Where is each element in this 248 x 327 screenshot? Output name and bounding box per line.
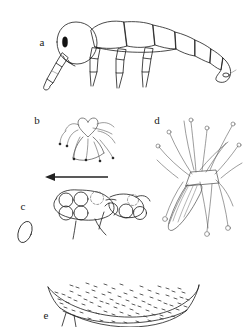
cordate-seta-6: [100, 140, 113, 158]
panel-label-a: a: [40, 36, 45, 48]
egg-cell: [59, 193, 73, 207]
egg-cell: [59, 206, 73, 220]
larva-antenna-segment1: [56, 53, 68, 67]
egg-cell-partial: [105, 203, 118, 215]
scale-seta-8: [218, 182, 228, 226]
larva-terminal-seta: [231, 70, 236, 73]
scale-seta-16: [221, 163, 242, 178]
cordate-seta-7: [86, 139, 88, 160]
larva-leg3-tarsus: [142, 72, 149, 87]
larva-thorax-t3: [153, 25, 176, 49]
larva-anal-opening: [223, 73, 229, 77]
lanceolate-scale: [168, 184, 202, 230]
panel-a-larva: a: [40, 21, 236, 90]
cordate-sclerite: [78, 118, 98, 137]
egg-cell: [134, 207, 147, 220]
larva-leg3-femur: [142, 58, 151, 72]
egg-stalk-1: [73, 221, 76, 239]
scale-seta-tip-11: [163, 217, 168, 222]
larva-leg3-coxa: [143, 48, 153, 59]
larva-thorax-t1: [91, 21, 127, 48]
larva-leg2-coxa: [116, 49, 126, 60]
scale-seta-tip-9: [205, 232, 210, 237]
cordate-seta-1: [65, 124, 79, 131]
dome-right-tip: [186, 285, 199, 311]
egg-stalk-2: [95, 219, 106, 235]
larva-leg1-femur: [90, 58, 98, 72]
scale-seta-1: [191, 122, 196, 172]
dome-left-tip: [48, 287, 60, 308]
cordate-seta-5: [98, 131, 115, 143]
panel-d-scale: d: [154, 114, 242, 236]
scale-seta-tip-3: [156, 144, 160, 148]
panel-b-cordate: b: [34, 114, 115, 162]
direction-arrow: [45, 173, 108, 181]
cordate-seta-tip-1: [73, 158, 75, 160]
scale-seta-17: [200, 182, 208, 228]
larva-abdomen-seg2: [195, 40, 211, 63]
panel-label-d: d: [154, 114, 160, 126]
larva-antenna-joint-line: [52, 71, 58, 74]
larva-leg1-tarsus: [90, 72, 97, 86]
larva-abdomen-seg3: [210, 49, 223, 70]
isolated-oval: [15, 219, 35, 244]
larva-leg2-tarsus: [116, 73, 123, 88]
larva-eye: [62, 37, 67, 47]
scale-seta-2: [170, 134, 192, 174]
panel-label-e: e: [44, 309, 49, 321]
panel-c-eggs: c: [15, 173, 150, 245]
cordate-seta-tip-4: [112, 157, 114, 159]
egg-cell: [74, 192, 88, 206]
egg-cell: [119, 204, 133, 218]
larva-abdomen-terminal: [216, 58, 231, 82]
larva-leg2-femur: [116, 59, 124, 73]
figure-plate: a b: [0, 0, 248, 327]
cordate-seta-9: [60, 131, 66, 144]
panel-label-c: c: [21, 200, 26, 212]
dome-peduncle: [62, 313, 76, 327]
cordate-seta-tip-3: [99, 160, 101, 162]
cordate-seta-tip-2: [85, 159, 87, 161]
larva-thorax-t2: [124, 22, 155, 48]
cordate-body-outline: [73, 137, 104, 158]
scale-seta-tip-6: [237, 143, 241, 147]
cordate-seta-tip-6: [66, 145, 68, 147]
cordate-seta-3: [74, 137, 80, 159]
cordate-seta-2: [67, 130, 78, 146]
arrow-head: [45, 173, 55, 181]
illustration-canvas: a b: [0, 0, 248, 327]
egg-cell-faint: [128, 195, 139, 206]
larva-antenna-segment2: [47, 63, 62, 83]
scale-seta-tip-5: [231, 122, 235, 126]
scale-seta-12: [157, 160, 178, 178]
scale-seta-15: [184, 121, 194, 170]
cordate-seta-tip-5: [59, 143, 61, 145]
egg-stalk-3: [99, 212, 104, 229]
scale-seta-tip-1: [189, 118, 193, 122]
scale-seta-3: [159, 147, 190, 176]
scale-seta-tip-4: [205, 126, 209, 130]
dome-upper-edge: [48, 285, 199, 317]
larva-abdomen-seg1: [175, 32, 195, 56]
egg-cell: [74, 206, 88, 220]
scale-seta-tip-2: [167, 130, 171, 134]
panel-e-dome: e: [44, 283, 199, 327]
cordate-seta-4: [97, 123, 114, 127]
larva-antenna-tip: [44, 79, 53, 90]
panel-label-b: b: [34, 114, 40, 126]
scale-seta-tip-8: [226, 226, 231, 231]
scale-seta-14: [206, 143, 226, 172]
